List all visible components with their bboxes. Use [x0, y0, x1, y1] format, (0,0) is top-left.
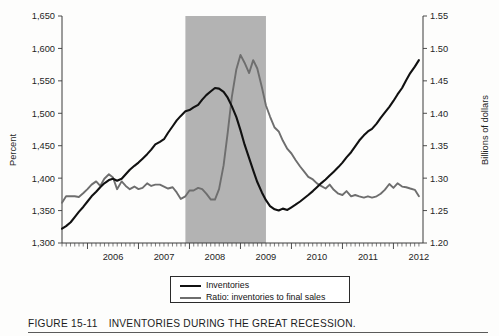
year-tick-label: 2006	[103, 252, 124, 262]
year-tick-label: 2010	[307, 252, 328, 262]
year-tick-label: 2009	[256, 252, 277, 262]
left-tick-label: 1,300	[32, 238, 55, 248]
left-tick-label: 1,500	[32, 109, 55, 119]
caption-rule	[28, 332, 488, 333]
right-axis-title: Billions of dollars	[480, 95, 490, 165]
left-tick-label: 1,600	[32, 44, 55, 54]
right-tick-label: 1.20	[430, 238, 448, 248]
left-tick-label: 1,550	[32, 76, 55, 86]
figure-caption-text: INVENTORIES DURING THE GREAT RECESSION.	[109, 318, 356, 329]
left-tick-label: 1,450	[32, 141, 55, 151]
right-axis-tick-labels: 1.201.251.301.351.401.451.501.55	[430, 11, 448, 248]
year-tick-label: 2007	[154, 252, 175, 262]
right-tick-label: 1.45	[430, 76, 448, 86]
legend-swatch-ratio	[180, 297, 201, 299]
left-axis-ticks	[58, 16, 62, 243]
legend-swatch-inventories	[180, 285, 201, 287]
bottom-axis-ticks	[62, 243, 419, 249]
bottom-axis-tick-labels: 2006200720082009201020112012	[103, 252, 430, 262]
right-tick-label: 1.30	[430, 174, 448, 184]
figure-number: FIGURE 15-11	[28, 318, 98, 329]
year-tick-label: 2011	[358, 252, 378, 262]
right-tick-label: 1.25	[430, 206, 448, 216]
left-tick-label: 1,400	[32, 174, 55, 184]
legend-item-ratio: Ratio: inventories to final sales	[180, 292, 349, 303]
recession-shading-group	[185, 16, 266, 243]
legend-item-inventories: Inventories	[180, 280, 349, 291]
left-tick-label: 1,650	[32, 11, 55, 21]
left-axis-tick-labels: 1,3001,3501,4001,4501,5001,5501,6001,650	[32, 11, 55, 248]
chart-legend: Inventories Ratio: inventories to final …	[170, 276, 350, 303]
figure-caption: FIGURE 15-11INVENTORIES DURING THE GREAT…	[28, 318, 488, 329]
right-tick-label: 1.40	[430, 109, 448, 119]
left-axis-title: Percent	[8, 134, 18, 166]
left-tick-label: 1,350	[32, 206, 55, 216]
right-axis-ticks	[423, 16, 427, 243]
recession-shaded-band	[185, 16, 266, 243]
right-tick-label: 1.50	[430, 44, 448, 54]
year-tick-label: 2012	[409, 252, 430, 262]
right-tick-label: 1.55	[430, 11, 448, 21]
year-tick-label: 2008	[205, 252, 226, 262]
right-tick-label: 1.35	[430, 141, 448, 151]
legend-label-inventories: Inventories	[206, 280, 249, 291]
figure-container: 1,3001,3501,4001,4501,5001,5501,6001,650…	[0, 0, 499, 336]
legend-label-ratio: Ratio: inventories to final sales	[206, 292, 325, 303]
